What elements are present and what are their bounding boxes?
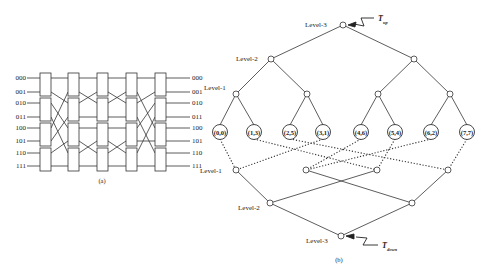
node-bottom-level3 (338, 233, 344, 239)
leaf-labels: (0,0) (1,3) (2,5) (3,1) (4,6) (5,4) (6,2… (214, 129, 473, 137)
t-down-label: Tdown (382, 241, 397, 252)
switch-box (126, 123, 137, 146)
node-bottom-level1 (445, 167, 451, 173)
switch-box (126, 98, 137, 121)
switch-box (97, 123, 108, 146)
node-top-level1 (447, 91, 453, 97)
caption-b: (b) (335, 256, 343, 264)
leaf-label: (1,3) (248, 129, 260, 137)
switch-box (126, 148, 137, 171)
switch-box (68, 98, 79, 121)
output-leads (166, 78, 177, 166)
node-top-level1 (233, 91, 239, 97)
node-top-level1 (375, 91, 381, 97)
switch-box (40, 73, 51, 96)
leaf-label: (3,1) (317, 129, 329, 137)
leaf-label: (2,5) (284, 129, 296, 137)
output-label: 000 (192, 74, 203, 82)
switch-box (40, 123, 51, 146)
switch-box (155, 98, 166, 121)
label-bottom-level3: Level-3 (306, 237, 328, 245)
input-label: 110 (16, 149, 27, 157)
label-top-level3: Level-3 (305, 21, 327, 29)
node-bottom-level2 (409, 200, 415, 206)
switch-box (155, 73, 166, 96)
label-bottom-level1: Level-1 (200, 167, 222, 175)
tree-nodes (233, 22, 453, 239)
input-label: 011 (16, 113, 27, 121)
switch-box (97, 98, 108, 121)
switch-box (40, 148, 51, 171)
label-top-level1: Level-1 (204, 84, 226, 92)
leaf-label: (7,7) (461, 129, 473, 137)
switch-box (155, 123, 166, 146)
node-bottom-level1 (233, 167, 239, 173)
node-bottom-level2 (267, 200, 273, 206)
leaf-label: (4,6) (355, 129, 367, 137)
node-bottom-level1 (374, 167, 380, 173)
node-top-level1 (304, 91, 310, 97)
input-label: 000 (16, 74, 27, 82)
caption-a: (a) (98, 177, 105, 185)
tree-diagram: (0,0) (1,3) (2,5) (3,1) (4,6) (5,4) (6,2… (200, 14, 475, 264)
leaf-label: (5,4) (389, 129, 401, 137)
switch-box (155, 148, 166, 171)
dotted-edges (220, 139, 467, 170)
top-tree-edges (220, 25, 467, 125)
switch-box (40, 98, 51, 121)
node-top-level3 (340, 22, 346, 28)
switch-box (68, 73, 79, 96)
input-label: 001 (16, 88, 27, 96)
switch-box (68, 148, 79, 171)
output-label: 101 (192, 137, 203, 145)
node-top-level2 (411, 56, 417, 62)
t-down-arrow-icon (346, 234, 378, 245)
input-label: 111 (16, 162, 26, 170)
output-label: 010 (192, 99, 203, 107)
multistage-network-diagram (27, 73, 190, 171)
leaf-label: (0,0) (214, 129, 226, 137)
figure-canvas: 000 001 010 011 100 101 110 111 000 001 … (0, 0, 491, 279)
network-switches (40, 73, 166, 171)
output-labels: 000 001 010 011 100 101 110 111 (192, 74, 203, 170)
t-up-label: Tup (378, 14, 388, 25)
label-bottom-level2: Level-2 (238, 204, 260, 212)
input-labels: 000 001 010 011 100 101 110 111 (16, 74, 27, 170)
output-label: 001 (192, 88, 203, 96)
output-label: 100 (192, 124, 203, 132)
t-up-arrow-icon (348, 18, 374, 27)
switch-box (126, 73, 137, 96)
input-label: 100 (16, 124, 27, 132)
input-label: 010 (16, 99, 27, 107)
leaf-label: (6,2) (425, 129, 437, 137)
node-bottom-level1 (303, 167, 309, 173)
output-label: 011 (192, 113, 203, 121)
input-label: 101 (16, 137, 27, 145)
label-top-level2: Level-2 (236, 55, 258, 63)
switch-box (68, 123, 79, 146)
switch-box (97, 148, 108, 171)
output-label: 110 (192, 149, 203, 157)
switch-box (97, 73, 108, 96)
node-top-level2 (268, 56, 274, 62)
